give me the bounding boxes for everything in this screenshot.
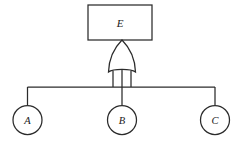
basic-event-label-c: C bbox=[211, 115, 219, 126]
fault-tree-diagram: E A B C bbox=[0, 0, 241, 145]
or-gate-shape bbox=[109, 40, 136, 72]
top-event-label: E bbox=[116, 17, 124, 29]
basic-event-label-a: A bbox=[23, 115, 31, 126]
fault-tree-canvas: E A B C bbox=[0, 0, 241, 145]
basic-event-label-b: B bbox=[119, 115, 126, 126]
